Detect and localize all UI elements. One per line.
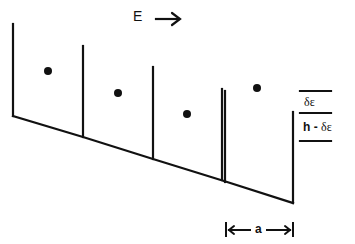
delta-epsilon-label: δε [304,96,315,108]
particle-dot [183,110,191,118]
period-label: a [255,223,262,235]
h-minus-text: h - [303,120,318,134]
tilted-wells-figure [0,0,355,244]
particle-dot [253,84,261,92]
field-label: E [133,9,142,23]
particle-dot [114,89,122,97]
h-minus-delta-epsilon-label: h - δε [303,121,332,133]
delta-epsilon-text: δε [321,120,332,134]
diagram-canvas: E δε h - δε a [0,0,355,244]
particle-dot [44,67,52,75]
field-arrow-icon [156,13,180,25]
